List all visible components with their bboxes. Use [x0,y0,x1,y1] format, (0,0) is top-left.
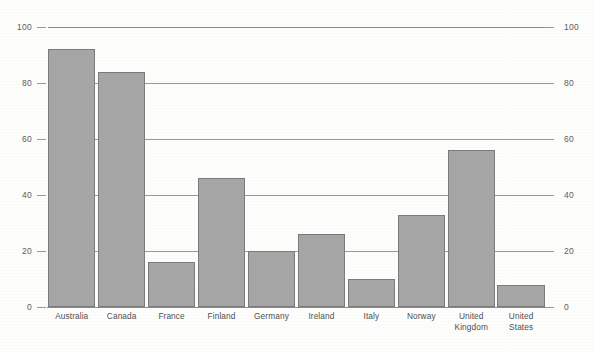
bar-united-kingdom[interactable] [448,150,495,307]
x-axis-label-united-states: United States [497,311,544,332]
bar-slot-canada [98,27,145,307]
bar-slot-norway [398,27,445,307]
bar-slot-germany [248,27,295,307]
x-label-slot-france: France [148,311,195,347]
bar-norway[interactable] [398,215,445,307]
x-label-slot-norway: Norway [398,311,445,347]
x-label-slot-finland: Finland [198,311,245,347]
y-tick-right-80 [545,83,554,84]
bar-slot-united-states [497,27,544,307]
bar-finland[interactable] [198,178,245,307]
y-axis-label-left-60: 60 [22,134,32,144]
x-axis-label-germany: Germany [248,311,295,322]
x-axis-label-italy: Italy [348,311,395,322]
bar-united-states[interactable] [497,285,544,307]
y-tick-right-100 [545,27,554,28]
bar-slot-united-kingdom [448,27,495,307]
y-axis-label-right-0: 0 [564,302,569,312]
bar-germany[interactable] [248,251,295,307]
y-axis-label-left-100: 100 [17,22,32,32]
x-axis-category-labels: Australia Canada France Finland Germany … [48,311,545,347]
bar-slot-ireland [298,27,345,307]
y-axis-label-right-60: 60 [564,134,574,144]
bar-canada[interactable] [98,72,145,307]
x-axis-label-norway: Norway [398,311,445,322]
bar-slot-finland [198,27,245,307]
x-label-slot-united-kingdom: UnitedKingdom [448,311,495,347]
y-tick-left-80 [37,83,46,84]
y-axis-label-right-20: 20 [564,246,574,256]
y-tick-left-60 [37,139,46,140]
y-tick-right-40 [545,195,554,196]
x-label-slot-germany: Germany [248,311,295,347]
bar-ireland[interactable] [298,234,345,307]
y-axis-label-right-80: 80 [564,78,574,88]
y-tick-right-20 [545,251,554,252]
chart-page: 100 80 60 40 20 0 100 80 60 40 20 0 [0,0,594,352]
x-label-slot-united-states: United States [497,311,544,347]
x-axis-label-united-kingdom: UnitedKingdom [448,311,495,332]
y-axis-label-left-20: 20 [22,246,32,256]
x-axis-label-france: France [148,311,195,322]
y-tick-right-60 [545,139,554,140]
x-label-slot-italy: Italy [348,311,395,347]
bar-slot-france [148,27,195,307]
y-axis-label-left-40: 40 [22,190,32,200]
y-axis-label-right-40: 40 [564,190,574,200]
y-tick-right-0 [545,307,554,308]
x-axis-baseline [47,307,546,308]
plot-area [48,27,545,307]
bar-australia[interactable] [48,49,95,307]
y-tick-left-20 [37,251,46,252]
bar-slot-italy [348,27,395,307]
bar-slot-australia [48,27,95,307]
y-tick-left-100 [37,27,46,28]
bar-italy[interactable] [348,279,395,307]
y-tick-left-40 [37,195,46,196]
y-tick-left-0 [37,307,46,308]
y-axis-label-right-100: 100 [564,22,579,32]
x-axis-label-australia: Australia [48,311,95,322]
x-label-slot-ireland: Ireland [298,311,345,347]
x-axis-label-canada: Canada [98,311,145,322]
x-axis-label-ireland: Ireland [298,311,345,322]
x-label-slot-australia: Australia [48,311,95,347]
y-axis-label-left-80: 80 [22,78,32,88]
bar-series [48,27,545,307]
y-axis-label-left-0: 0 [27,302,32,312]
x-label-slot-canada: Canada [98,311,145,347]
x-axis-label-finland: Finland [198,311,245,322]
bar-france[interactable] [148,262,195,307]
